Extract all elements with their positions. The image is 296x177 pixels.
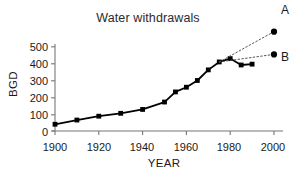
data-point xyxy=(118,111,123,116)
data-point xyxy=(239,63,244,68)
data-point xyxy=(206,67,211,72)
series-line-A xyxy=(219,32,274,62)
endpoint-marker-B xyxy=(271,51,277,57)
data-point xyxy=(184,85,189,90)
plot-area xyxy=(0,0,296,177)
data-point xyxy=(162,100,167,105)
data-point xyxy=(75,118,80,123)
series-line-B xyxy=(219,54,274,62)
data-point xyxy=(250,62,255,67)
y-axis-ticks xyxy=(51,47,55,131)
series-line-historical xyxy=(55,59,252,125)
chart-figure: Water withdrawals BGD YEAR 500 400 300 2… xyxy=(0,0,296,177)
data-point xyxy=(140,107,145,112)
data-point xyxy=(173,90,178,95)
data-series-layer xyxy=(53,29,278,127)
data-point xyxy=(96,114,101,119)
x-axis-ticks xyxy=(55,131,274,135)
endpoint-marker-A xyxy=(271,29,277,35)
data-point xyxy=(195,78,200,83)
data-point xyxy=(53,122,58,127)
series-historical xyxy=(53,56,255,126)
